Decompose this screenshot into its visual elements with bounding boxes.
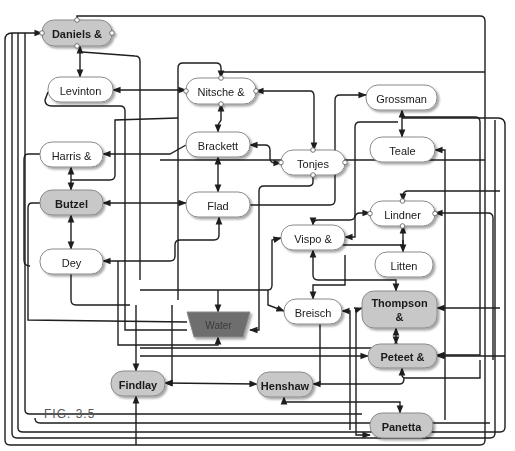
node-breisch[interactable]: Breisch	[284, 299, 342, 324]
node-label: Nitsche &	[197, 86, 245, 98]
node-butzel[interactable]: Butzel	[40, 190, 103, 215]
port-handle-icon[interactable]	[184, 89, 189, 94]
edge-nitsche-tonjes	[256, 91, 314, 150]
edge-henshaw-peteet	[313, 378, 404, 384]
node-panetta[interactable]: Panetta	[370, 413, 433, 438]
node-label: Flad	[207, 200, 228, 212]
edge-henshaw-right	[313, 315, 342, 384]
node-label: Litten	[391, 260, 418, 272]
node-label: Lindner	[384, 209, 421, 221]
node-flad[interactable]: Flad	[186, 192, 250, 217]
node-label-line2: &	[396, 311, 404, 323]
node-lindner[interactable]: Lindner	[368, 199, 438, 229]
edge-findlay-henshaw	[165, 383, 257, 384]
node-label: Brackett	[198, 140, 238, 152]
edge-lindner-vispo	[345, 213, 370, 237]
port-handle-icon[interactable]	[254, 89, 259, 94]
node-nitsche[interactable]: Nitsche &	[184, 76, 259, 107]
node-henshaw[interactable]: Henshaw	[257, 372, 313, 397]
port-handle-icon[interactable]	[311, 173, 316, 178]
port-handle-icon[interactable]	[279, 160, 284, 165]
node-findlay[interactable]: Findlay	[111, 371, 165, 396]
edge-henshaw-panetta	[284, 397, 400, 413]
port-handle-icon[interactable]	[75, 18, 80, 23]
node-label: Daniels &	[52, 28, 102, 40]
node-label: Findlay	[119, 379, 158, 391]
node-water[interactable]: Water	[187, 312, 250, 337]
edge-breisch-right	[342, 311, 350, 430]
node-label: Vispo &	[294, 233, 332, 245]
node-litten[interactable]: Litten	[375, 252, 433, 277]
port-handle-icon[interactable]	[311, 148, 316, 153]
edge-dey-flad	[103, 217, 219, 261]
port-handle-icon[interactable]	[400, 224, 405, 229]
edge-breisch-left	[268, 290, 284, 311]
node-label: Butzel	[55, 198, 88, 210]
node-label: Tonjes	[297, 158, 329, 170]
network-diagram: Daniels &LevintonNitsche &GrossmanHarris…	[0, 0, 515, 451]
figure-caption: FIG. 3.5	[44, 407, 95, 421]
edge-thompson-left	[356, 308, 362, 310]
node-teale[interactable]: Teale	[370, 137, 435, 162]
node-label: Breisch	[295, 307, 332, 319]
node-label: Peteet &	[380, 351, 424, 363]
node-brackett[interactable]: Brackett	[186, 132, 250, 157]
edge-water-top-line	[140, 238, 281, 290]
port-handle-icon[interactable]	[433, 211, 438, 216]
node-peteet[interactable]: Peteet &	[368, 344, 437, 368]
edge-nitsche-brackett	[218, 104, 221, 132]
node-harris[interactable]: Harris &	[40, 142, 103, 167]
port-handle-icon[interactable]	[75, 44, 80, 49]
node-label: Henshaw	[261, 380, 310, 392]
nodes-layer: Daniels &LevintonNitsche &GrossmanHarris…	[40, 18, 438, 438]
node-label: Harris &	[52, 150, 92, 162]
node-label: Dey	[62, 257, 82, 269]
edge-vispo-breisch	[313, 255, 345, 299]
node-thompson[interactable]: Thompson&	[362, 291, 437, 328]
port-handle-icon[interactable]	[400, 199, 405, 204]
port-handle-icon[interactable]	[368, 211, 373, 216]
node-label: Grossman	[376, 93, 427, 105]
node-label: Water	[205, 320, 232, 331]
edge-findlay-right	[165, 305, 172, 383]
port-handle-icon[interactable]	[40, 31, 45, 36]
node-dey[interactable]: Dey	[40, 249, 103, 274]
edge-thompson-column	[356, 310, 370, 435]
node-label: Teale	[389, 145, 415, 157]
node-grossman[interactable]: Grossman	[366, 85, 437, 110]
port-handle-icon[interactable]	[343, 160, 348, 165]
node-label: Thompson	[371, 297, 427, 309]
edge-findlay-thompson	[140, 340, 396, 348]
node-label: Panetta	[382, 421, 423, 433]
node-levinton[interactable]: Levinton	[48, 77, 113, 102]
edge-dey-down	[71, 274, 130, 305]
node-tonjes[interactable]: Tonjes	[279, 148, 348, 178]
port-handle-icon[interactable]	[219, 76, 224, 81]
port-handle-icon[interactable]	[219, 102, 224, 107]
node-daniels[interactable]: Daniels &	[40, 18, 115, 49]
port-handle-icon[interactable]	[110, 31, 115, 36]
node-label: Levinton	[60, 85, 102, 97]
edge-harris-left	[24, 154, 40, 266]
node-vispo[interactable]: Vispo &	[281, 225, 345, 250]
